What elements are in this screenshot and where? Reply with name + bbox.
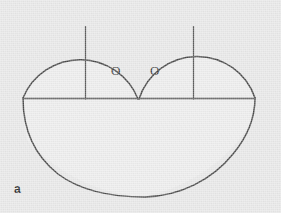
origin-label-left: O — [111, 64, 120, 77]
figure-panel: O O a — [0, 0, 281, 213]
panel-label: a — [14, 183, 21, 195]
figure-vector-layer — [0, 0, 281, 213]
left-lobe-arc — [23, 60, 138, 99]
lower-outline-curve — [23, 98, 255, 197]
origin-label-right: O — [150, 64, 159, 77]
